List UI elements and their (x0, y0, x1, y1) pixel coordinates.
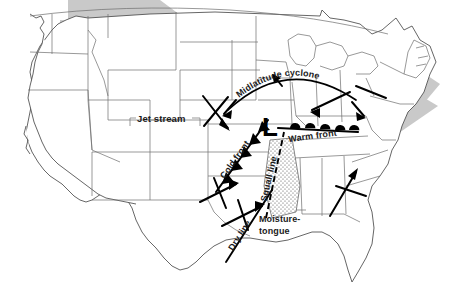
us-weather-map-svg: L (0, 0, 472, 294)
label-moisture-tongue-line2: tongue (259, 226, 290, 236)
low-pressure-center: L (262, 112, 278, 142)
label-jet-stream: Jet stream (137, 113, 186, 124)
label-moisture-tongue-line1: Moisture- (259, 214, 300, 224)
weather-map-figure: L (0, 0, 472, 294)
